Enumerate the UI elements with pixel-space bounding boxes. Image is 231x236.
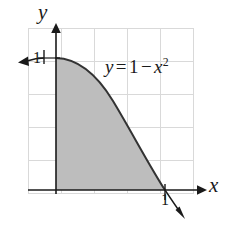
y-tick-label-1: 1: [33, 50, 41, 66]
y-tick-leader-arrowhead-icon: [18, 57, 29, 67]
x-axis-arrowhead-icon: [197, 185, 207, 195]
math-figure: y x 1 1 y=1−x2: [0, 0, 231, 236]
y-axis-label: y: [38, 2, 47, 23]
equation-lhs: y: [105, 56, 114, 77]
graph-canvas: [0, 0, 231, 236]
shaded-region: [56, 58, 165, 190]
equation-constant: 1: [129, 56, 139, 77]
equation-variable: x: [154, 56, 163, 77]
equation-exponent: 2: [163, 56, 169, 69]
equation-equals-sign: =: [114, 56, 129, 77]
x-tick-label-1: 1: [161, 192, 169, 208]
equation-minus-sign: −: [139, 56, 154, 77]
curve-equation-label: y=1−x2: [105, 57, 169, 76]
x-axis-label: x: [209, 175, 218, 196]
